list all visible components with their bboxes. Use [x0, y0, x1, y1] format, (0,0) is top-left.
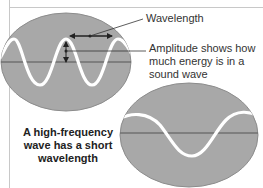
high-frequency-oscilloscope — [0, 13, 140, 111]
wavelength-label: Wavelength — [146, 12, 204, 25]
high-frequency-caption: A high-frequency wave has a short wavele… — [18, 126, 118, 165]
oscilloscope-screen-2 — [120, 83, 258, 187]
low-frequency-oscilloscope — [118, 83, 262, 187]
amplitude-label: Amplitude shows how much energy is in a … — [149, 42, 259, 81]
